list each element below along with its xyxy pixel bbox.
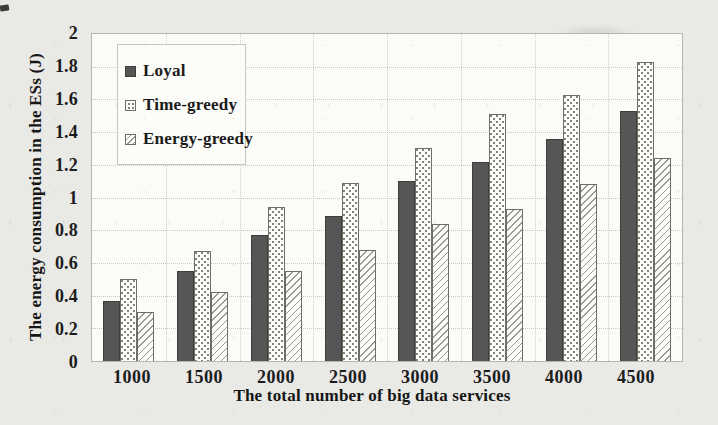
legend-label-time-greedy: Time-greedy [143, 95, 237, 115]
bar-time-greedy-1000 [120, 279, 137, 361]
plot-area: LoyalTime-greedyEnergy-greedy [91, 33, 683, 362]
legend-item-loyal: Loyal [125, 54, 241, 88]
legend-swatch-dots-icon [125, 100, 136, 111]
bar-loyal-3500 [472, 162, 489, 361]
y-tick-label-0.2: 0.2 [55, 319, 78, 340]
bar-loyal-4500 [620, 111, 637, 361]
bar-energy-greedy-4000 [580, 184, 597, 361]
bar-energy-greedy-4500 [654, 158, 671, 361]
y-tick-label-2: 2 [69, 23, 78, 44]
x-tick-label-4000: 4000 [545, 367, 583, 388]
x-tick-label-2500: 2500 [329, 367, 367, 388]
bar-energy-greedy-2500 [359, 250, 376, 361]
legend-item-energy-greedy: Energy-greedy [125, 122, 241, 156]
x-tick-label-3000: 3000 [401, 367, 439, 388]
x-tick-label-1000: 1000 [113, 367, 151, 388]
x-tick-label-4500: 4500 [617, 367, 655, 388]
legend-label-energy-greedy: Energy-greedy [143, 129, 253, 149]
y-tick-label-1: 1 [69, 188, 78, 209]
bar-time-greedy-3500 [489, 114, 506, 361]
y-axis-tick-labels: 00.20.40.60.811.21.41.61.82 [0, 33, 84, 362]
x-tick-label-1500: 1500 [185, 367, 223, 388]
bar-group-3500 [461, 34, 535, 361]
bar-energy-greedy-2000 [285, 271, 302, 361]
scan-artifact-mark [0, 4, 9, 11]
bar-loyal-2000 [251, 235, 268, 361]
x-tick-label-3500: 3500 [473, 367, 511, 388]
bar-loyal-2500 [325, 216, 342, 362]
legend-label-loyal: Loyal [143, 61, 186, 81]
bar-group-2000 [240, 34, 314, 361]
bar-loyal-1500 [177, 271, 194, 361]
legend-swatch-hatch-icon [125, 134, 136, 145]
bar-group-4000 [535, 34, 609, 361]
bar-time-greedy-1500 [194, 251, 211, 361]
bar-energy-greedy-1500 [211, 292, 228, 361]
bar-loyal-3000 [398, 181, 415, 361]
bar-time-greedy-4000 [563, 95, 580, 362]
bar-energy-greedy-3500 [506, 209, 523, 361]
bar-group-4500 [608, 34, 682, 361]
y-tick-label-0.6: 0.6 [55, 254, 78, 275]
x-tick-label-2000: 2000 [257, 367, 295, 388]
y-tick-label-1.4: 1.4 [55, 122, 78, 143]
bar-time-greedy-2000 [268, 207, 285, 361]
bar-energy-greedy-1000 [137, 312, 154, 361]
bar-time-greedy-2500 [342, 183, 359, 361]
y-tick-label-0.8: 0.8 [55, 221, 78, 242]
y-tick-label-1.6: 1.6 [55, 89, 78, 110]
y-tick-label-1.8: 1.8 [55, 56, 78, 77]
y-tick-label-0: 0 [69, 352, 78, 373]
bar-group-2500 [313, 34, 387, 361]
bar-loyal-1000 [103, 301, 120, 361]
x-axis-title: The total number of big data services [91, 386, 653, 406]
legend: LoyalTime-greedyEnergy-greedy [117, 44, 246, 165]
bar-energy-greedy-3000 [432, 224, 449, 361]
bar-group-3000 [387, 34, 461, 361]
y-tick-label-1.2: 1.2 [55, 155, 78, 176]
bar-time-greedy-3000 [415, 148, 432, 361]
y-tick-label-0.4: 0.4 [55, 287, 78, 308]
x-axis-tick-labels: 10001500200025003000350040004500 [91, 367, 683, 387]
scanned-figure-page: The energy consumption in the ESs (J) Lo… [0, 0, 718, 425]
bar-loyal-4000 [546, 139, 563, 361]
legend-item-time-greedy: Time-greedy [125, 88, 241, 122]
legend-swatch-solid-icon [125, 66, 136, 77]
bar-time-greedy-4500 [637, 62, 654, 361]
